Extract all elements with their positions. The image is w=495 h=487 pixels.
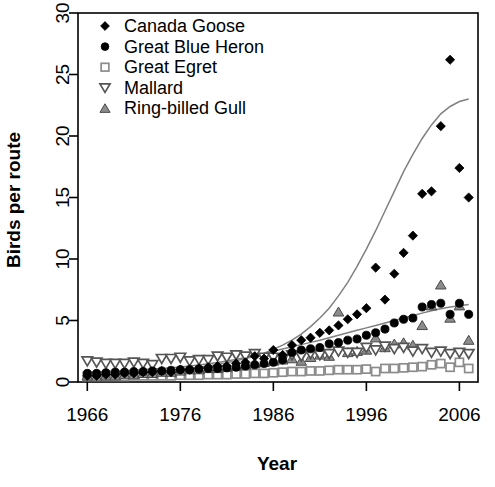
data-point [297, 367, 305, 375]
data-point [372, 367, 380, 375]
data-point [307, 367, 315, 375]
data-point [297, 346, 305, 354]
data-point [446, 310, 454, 318]
data-point [251, 361, 259, 369]
data-point [418, 303, 426, 311]
y-axis-title: Birds per route [3, 132, 24, 268]
data-point [372, 329, 380, 337]
legend-label: Great Egret [124, 57, 217, 77]
data-point [455, 299, 463, 307]
data-point [400, 364, 408, 372]
data-point [288, 367, 296, 375]
x-tick-label: 1976 [159, 404, 201, 425]
data-point [381, 325, 389, 333]
x-tick-label: 1966 [66, 404, 108, 425]
y-tick-label: 15 [52, 187, 73, 208]
legend-label: Canada Goose [124, 16, 245, 36]
data-point [455, 358, 463, 366]
x-tick-label: 1986 [252, 404, 294, 425]
y-tick-label: 5 [52, 315, 73, 326]
data-point [241, 370, 249, 378]
bird-abundance-scatter-chart: 051015202530 19661976198619962006 Year B… [0, 0, 495, 487]
data-point [427, 361, 435, 369]
y-tick-label: 25 [52, 64, 73, 85]
data-point [334, 366, 342, 374]
data-point [409, 363, 417, 371]
data-point [381, 364, 389, 372]
data-point [279, 368, 287, 376]
data-point [344, 336, 352, 344]
data-point [325, 340, 333, 348]
data-point [307, 345, 315, 353]
data-point [390, 364, 398, 372]
data-point [409, 314, 417, 322]
data-point [362, 365, 370, 373]
data-point [465, 364, 473, 372]
data-point [353, 366, 361, 374]
y-tick-label: 0 [52, 377, 73, 388]
data-point [334, 339, 342, 347]
data-point [269, 369, 277, 377]
data-point [260, 369, 268, 377]
data-point [418, 363, 426, 371]
x-tick-label: 2006 [438, 404, 480, 425]
y-tick-label: 20 [52, 125, 73, 146]
data-point [316, 367, 324, 375]
x-axis-title: Year [257, 453, 298, 474]
data-point [437, 299, 445, 307]
legend-label: Mallard [124, 78, 183, 98]
data-point [362, 331, 370, 339]
data-point [316, 344, 324, 352]
data-point [390, 319, 398, 327]
data-point [353, 335, 361, 343]
data-point [251, 369, 259, 377]
data-point [269, 358, 277, 366]
legend-marker-filled-circle [101, 43, 109, 51]
legend-label: Ring-billed Gull [124, 98, 246, 118]
x-tick-label: 1996 [345, 404, 387, 425]
data-point [446, 363, 454, 371]
data-point [427, 300, 435, 308]
data-point [465, 310, 473, 318]
y-tick-label: 10 [52, 248, 73, 269]
y-tick-label: 30 [52, 2, 73, 23]
data-point [325, 366, 333, 374]
chart-figure: 051015202530 19661976198619962006 Year B… [0, 0, 495, 487]
data-point [400, 315, 408, 323]
data-point [437, 360, 445, 368]
legend-marker-open-square [101, 63, 109, 71]
legend-label: Great Blue Heron [124, 37, 264, 57]
data-point [344, 366, 352, 374]
